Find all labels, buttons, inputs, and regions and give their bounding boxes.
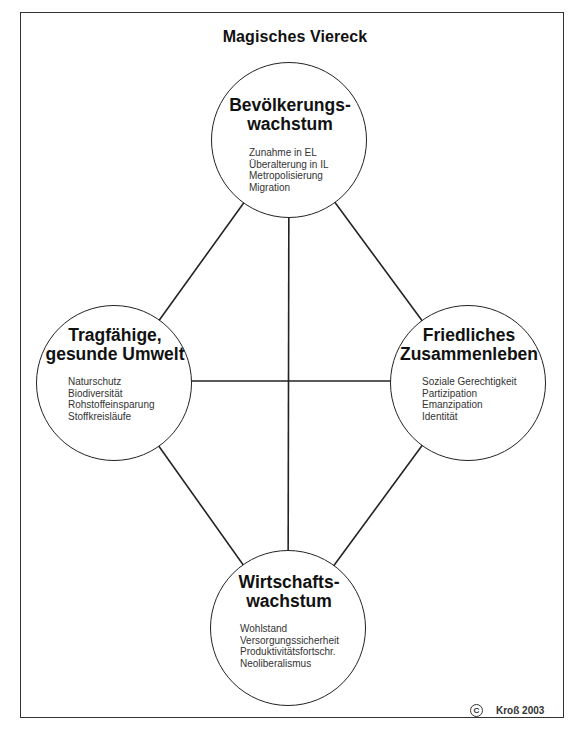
node-item-list: Zunahme in EL Überalterung in IL Metropo… [249, 147, 329, 193]
list-item: Wohlstand [240, 623, 339, 635]
list-item: Versorgungssicherheit [240, 635, 339, 647]
copyright-icon: C [470, 704, 483, 717]
heading-line: Zusammenleben [385, 345, 553, 364]
list-item: Soziale Gerechtigkeit [422, 376, 517, 388]
heading-line: wachstum [206, 115, 374, 134]
heading-line: gesunde Umwelt [31, 345, 199, 364]
heading-line: Wirtschafts- [205, 573, 373, 592]
list-item: Naturschutz [68, 376, 155, 388]
node-item-list: Wohlstand Versorgungssicherheit Produkti… [240, 623, 339, 669]
list-item: Emanzipation [422, 399, 517, 411]
node-wirtschaftswachstum: Wirtschafts- wachstum Wohlstand Versorgu… [210, 550, 366, 706]
node-item-list: Soziale Gerechtigkeit Partizipation Eman… [422, 376, 517, 422]
list-item: Partizipation [422, 388, 517, 400]
list-item: Stoffkreisläufe [68, 411, 155, 423]
node-heading: Friedliches Zusammenleben [385, 326, 553, 364]
list-item: Neoliberalismus [240, 658, 339, 670]
list-item: Metropolisierung [249, 170, 329, 182]
list-item: Produktivitätsfortschr. [240, 646, 339, 658]
node-heading: Bevölkerungs- wachstum [206, 96, 374, 134]
heading-line: Tragfähige, [31, 326, 199, 345]
list-item: Identität [422, 411, 517, 423]
list-item: Biodiversität [68, 388, 155, 400]
copyright-text: Kroß 2003 [496, 705, 544, 716]
node-heading: Wirtschafts- wachstum [205, 573, 373, 611]
node-bevoelkerungswachstum: Bevölkerungs- wachstum Zunahme in EL Übe… [211, 62, 367, 218]
heading-line: Bevölkerungs- [206, 96, 374, 115]
node-zusammenleben: Friedliches Zusammenleben Soziale Gerech… [390, 305, 546, 461]
node-umwelt: Tragfähige, gesunde Umwelt Naturschutz B… [36, 305, 192, 461]
list-item: Überalterung in IL [249, 159, 329, 171]
list-item: Zunahme in EL [249, 147, 329, 159]
node-heading: Tragfähige, gesunde Umwelt [31, 326, 199, 364]
heading-line: Friedliches [385, 326, 553, 345]
list-item: Rohstoffeinsparung [68, 399, 155, 411]
node-item-list: Naturschutz Biodiversität Rohstoffeinspa… [68, 376, 155, 422]
list-item: Migration [249, 182, 329, 194]
copyright-notice: C Kroß 2003 [470, 704, 544, 717]
heading-line: wachstum [205, 592, 373, 611]
